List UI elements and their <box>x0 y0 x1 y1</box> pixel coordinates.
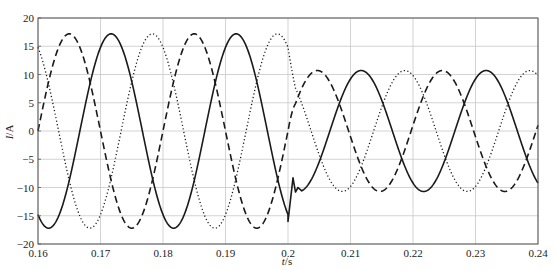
x-tick-label: 0.21 <box>341 247 360 259</box>
grid-lines <box>38 18 538 244</box>
x-tick-label: 0.17 <box>91 247 111 259</box>
y-tick-label: −5 <box>22 153 34 165</box>
y-tick-label: 10 <box>23 69 35 81</box>
y-tick-label: 5 <box>29 97 35 109</box>
y-tick-label: 15 <box>23 40 35 52</box>
current-waveform-chart: 20151050−5−10−15−20 0.160.170.180.190.20… <box>0 0 558 270</box>
y-axis-label: I/A <box>3 125 15 141</box>
x-tick-label: 0.22 <box>403 247 422 259</box>
y-tick-label: 20 <box>23 12 35 24</box>
y-tick-label: −10 <box>17 182 35 194</box>
y-tick-label: −15 <box>17 210 35 222</box>
x-tick-label: 0.24 <box>528 247 548 259</box>
x-tick-label: 0.18 <box>153 247 173 259</box>
x-axis-label: t/s <box>282 255 292 267</box>
x-tick-label: 0.23 <box>466 247 486 259</box>
y-tick-label: 0 <box>29 125 35 137</box>
x-tick-label: 0.16 <box>28 247 48 259</box>
x-tick-label: 0.19 <box>216 247 236 259</box>
y-axis-ticks: 20151050−5−10−15−20 <box>17 12 41 250</box>
